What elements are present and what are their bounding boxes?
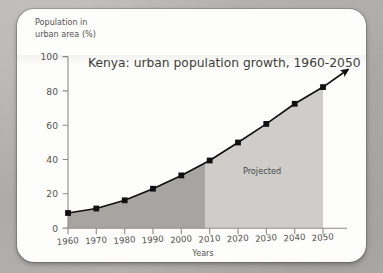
x-tick-label-1990: 1990: [141, 234, 164, 246]
chart-card: 100 80 60 40 20 0 1960: [17, 9, 366, 262]
x-tick-label-1980: 1980: [113, 234, 136, 246]
urban-population-growth-chart: 100 80 60 40 20 0 1960: [17, 9, 366, 262]
chart-figure: 100 80 60 40 20 0 1960: [17, 9, 366, 262]
y-tick-label-100: 100: [40, 51, 58, 62]
data-point-2000: [178, 173, 184, 179]
data-point-2040: [292, 101, 298, 107]
y-axis-tick-labels: 100 80 60 40 20 0: [40, 51, 58, 234]
x-tick-label-2010: 2010: [198, 233, 221, 245]
data-point-1980: [122, 197, 128, 203]
y-tick-label-80: 80: [46, 86, 58, 97]
projected-region-label: Projected: [243, 166, 281, 176]
y-axis-ticks: [63, 57, 69, 229]
y-axis-title-line2: urban area (%): [35, 29, 96, 39]
data-point-2030: [263, 121, 269, 127]
x-tick-label-2020: 2020: [226, 232, 249, 244]
trend-arrow: [323, 70, 348, 88]
data-point-1990: [150, 186, 156, 192]
area-fill-group: [68, 87, 323, 228]
x-tick-label-1960: 1960: [56, 235, 79, 247]
data-point-2010: [207, 158, 213, 164]
x-tick-label-1970: 1970: [85, 234, 108, 246]
y-tick-label-60: 60: [46, 120, 58, 131]
y-tick-label-0: 0: [52, 223, 58, 234]
data-point-2020: [235, 140, 241, 146]
y-tick-label-40: 40: [46, 154, 58, 165]
x-axis-title: Years: [191, 248, 213, 258]
projected-area-fill: [205, 87, 323, 228]
data-point-1970: [93, 206, 99, 212]
data-point-2050: [320, 84, 326, 90]
x-tick-label-2050: 2050: [311, 231, 334, 243]
x-tick-label-2030: 2030: [255, 232, 278, 244]
y-axis-title-line1: Population in: [35, 17, 87, 27]
data-point-1960: [65, 210, 71, 216]
x-tick-label-2000: 2000: [170, 233, 193, 245]
y-tick-label-20: 20: [46, 188, 58, 199]
x-axis-tick-labels: 1960 1970 1980 1990 2000 2010 2020 2030 …: [56, 231, 334, 247]
x-tick-label-2040: 2040: [283, 232, 306, 244]
chart-title: Kenya: urban population growth, 1960-205…: [88, 56, 361, 70]
